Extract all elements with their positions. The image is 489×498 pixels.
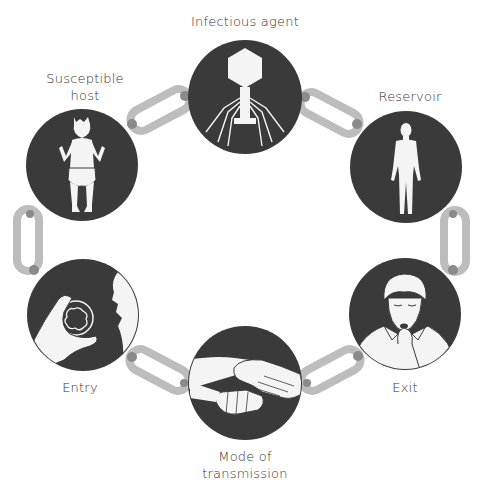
cropped-caption-fragment (160, 0, 360, 3)
node-reservoir (350, 111, 462, 223)
label-exit: Exit (370, 379, 440, 396)
node-mode-of-transmission (186, 326, 304, 440)
label-entry: Entry (40, 379, 120, 396)
label-reservoir: Reservoir (360, 88, 460, 105)
chain-link-exit-transmission (298, 345, 365, 394)
node-exit (349, 258, 461, 372)
label-mode-of-transmission: Mode of transmission (185, 448, 305, 482)
chain-link-reservoir-exit (444, 210, 466, 275)
chain-link-transmission-entry (126, 345, 193, 394)
chain-link-agent-reservoir (297, 88, 364, 137)
node-infectious-agent (188, 40, 302, 154)
label-infectious-agent: Infectious agent (175, 13, 315, 30)
chain-of-infection-diagram: Infectious agent Reservoir Exit Mode of … (0, 0, 489, 498)
label-susceptible-host: Susceptible host (30, 70, 140, 104)
chain-link-entry-host (17, 209, 39, 275)
node-susceptible-host (26, 109, 138, 221)
